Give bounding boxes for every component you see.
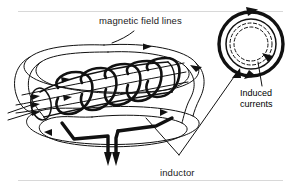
- inflow-arrow-2: [31, 102, 40, 108]
- lead-wire-return: [118, 118, 172, 131]
- leader-to-ring: [196, 74, 236, 131]
- field-arrow-lower-left: [44, 129, 52, 136]
- lead-wire-left: [62, 123, 108, 152]
- field-arrow-top: [143, 44, 152, 51]
- induced-currents-label-line1: Induced: [240, 88, 272, 98]
- ring-dashed-inner: [234, 27, 268, 61]
- lead-arrow-right: [112, 152, 120, 166]
- inductor-label: inductor: [160, 167, 195, 178]
- coil-windings: [56, 58, 179, 114]
- magnetic-field-loops: [15, 44, 205, 147]
- magnetic-field-lines-label: magnetic field lines: [99, 15, 182, 26]
- field-arrow-lower-right: [160, 109, 168, 116]
- ring-outer-solid: [219, 12, 283, 76]
- lead-wire-right: [116, 131, 118, 152]
- field-arrow-right-upper: [190, 65, 202, 72]
- lead-arrow-left: [104, 152, 112, 166]
- inflow-arrow-1: [31, 94, 40, 100]
- ring-dashed-outer: [230, 23, 272, 65]
- field-loop-right-wrap-inner: [182, 68, 194, 123]
- axial-arrow-mid: [63, 95, 72, 101]
- leader-magnetic-field: [112, 31, 134, 43]
- diagram-canvas: magnetic field lines inductor Induced cu…: [0, 0, 301, 187]
- induced-current-ring: [219, 7, 283, 79]
- induced-currents-label-line2: currents: [240, 99, 273, 109]
- physics-diagram-figure: magnetic field lines inductor Induced cu…: [0, 0, 301, 187]
